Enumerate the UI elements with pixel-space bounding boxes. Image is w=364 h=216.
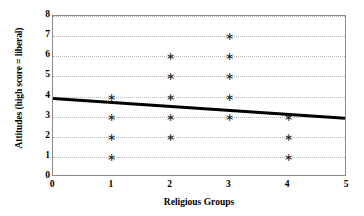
y-axis-title: Attitudes (high score = liberal) bbox=[8, 0, 30, 176]
y-tick-label: 5 bbox=[34, 71, 50, 81]
y-tick-label: 1 bbox=[34, 151, 50, 161]
data-point-marker: ∗ bbox=[166, 71, 175, 82]
x-tick-label: 3 bbox=[218, 180, 238, 190]
y-tick-label: 6 bbox=[34, 51, 50, 61]
data-point-marker: ∗ bbox=[225, 71, 234, 82]
data-point-marker: ∗ bbox=[284, 151, 293, 162]
x-tick-label: 5 bbox=[336, 180, 356, 190]
y-tick-label: 7 bbox=[34, 30, 50, 40]
data-point-marker: ∗ bbox=[107, 131, 116, 142]
y-tick-label: 8 bbox=[34, 10, 50, 20]
data-point-marker: ∗ bbox=[225, 91, 234, 102]
x-tick-label: 2 bbox=[160, 180, 180, 190]
x-tick-label: 1 bbox=[101, 180, 121, 190]
data-point-marker: ∗ bbox=[107, 91, 116, 102]
data-point-marker: ∗ bbox=[225, 111, 234, 122]
y-tick-label: 2 bbox=[34, 131, 50, 141]
data-point-marker: ∗ bbox=[107, 111, 116, 122]
regression-trendline bbox=[53, 98, 345, 118]
x-tick-label: 0 bbox=[42, 180, 62, 190]
data-point-marker: ∗ bbox=[166, 91, 175, 102]
y-tick-label: 3 bbox=[34, 111, 50, 121]
trendline-layer bbox=[53, 16, 345, 175]
x-tick-label: 4 bbox=[277, 180, 297, 190]
data-point-marker: ∗ bbox=[107, 151, 116, 162]
data-point-marker: ∗ bbox=[166, 131, 175, 142]
chart-figure: Attitudes (high score = liberal) 0123456… bbox=[0, 0, 364, 216]
data-point-marker: ∗ bbox=[284, 131, 293, 142]
data-point-marker: ∗ bbox=[225, 31, 234, 42]
data-point-marker: ∗ bbox=[166, 51, 175, 62]
y-tick-label: 4 bbox=[34, 91, 50, 101]
data-point-marker: ∗ bbox=[225, 51, 234, 62]
plot-area: ∗∗∗∗∗∗∗∗∗∗∗∗∗∗∗∗∗ bbox=[52, 15, 346, 176]
data-point-marker: ∗ bbox=[166, 111, 175, 122]
data-point-marker: ∗ bbox=[284, 111, 293, 122]
x-axis-title: Religious Groups bbox=[52, 198, 346, 208]
